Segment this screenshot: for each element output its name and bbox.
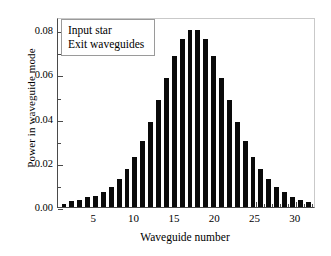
bar-waveguide-30: [290, 197, 295, 207]
bar-slot: [210, 19, 218, 207]
x-axis-title: Waveguide number: [55, 231, 315, 243]
bar-slot: [257, 19, 265, 207]
bar-waveguide-8: [117, 179, 122, 207]
bar-waveguide-11: [140, 141, 145, 207]
bar-waveguide-10: [132, 157, 137, 207]
chart-figure: Power in waveguide mode 0.000.020.040.06…: [0, 0, 331, 256]
bar-waveguide-16: [180, 39, 185, 207]
bar-waveguide-20: [211, 56, 216, 207]
bar-slot: [288, 19, 296, 207]
bar-waveguide-17: [188, 30, 193, 207]
bar-waveguide-21: [219, 78, 224, 207]
bar-slot: [304, 19, 312, 207]
bar-waveguide-24: [243, 141, 248, 207]
bar-waveguide-2: [69, 201, 74, 207]
bar-waveguide-9: [125, 169, 130, 207]
bar-slot: [225, 19, 233, 207]
bar-waveguide-19: [203, 39, 208, 207]
bar-waveguide-32: [306, 202, 311, 207]
bar-slot: [186, 19, 194, 207]
bar-waveguide-26: [258, 169, 263, 207]
bar-slot: [265, 19, 273, 207]
bar-waveguide-7: [109, 187, 114, 207]
x-tick-label: 25: [240, 211, 270, 225]
bar-waveguide-28: [274, 187, 279, 207]
bar-waveguide-1: [62, 204, 67, 207]
bar-waveguide-14: [164, 78, 169, 207]
y-tick-label: 0.02: [19, 159, 53, 169]
y-tick-label: 0.08: [19, 26, 53, 36]
bar-slot: [194, 19, 202, 207]
bar-slot: [281, 19, 289, 207]
legend-box: Input star Exit waveguides: [61, 19, 155, 56]
bar-slot: [170, 19, 178, 207]
y-tick-label: 0.00: [19, 203, 53, 213]
bar-slot: [273, 19, 281, 207]
bar-slot: [162, 19, 170, 207]
bar-waveguide-27: [266, 179, 271, 207]
bar-waveguide-12: [148, 122, 153, 207]
bar-waveguide-23: [235, 122, 240, 207]
bar-slot: [155, 19, 163, 207]
y-tick-label: 0.06: [19, 70, 53, 80]
x-tick-label: 5: [78, 211, 108, 225]
bar-slot: [241, 19, 249, 207]
bar-waveguide-18: [195, 30, 200, 207]
bar-waveguide-5: [93, 196, 98, 207]
bar-waveguide-3: [77, 200, 82, 207]
x-tick-label: 15: [159, 211, 189, 225]
bar-waveguide-31: [298, 200, 303, 207]
legend-entry-input-star: Input star: [68, 23, 144, 37]
legend-entry-exit-waveguides: Exit waveguides: [68, 37, 144, 51]
y-axis-tick-labels: 0.000.020.040.060.08: [16, 18, 53, 208]
bar-waveguide-4: [85, 197, 90, 207]
bar-waveguide-15: [172, 56, 177, 207]
y-tick-major: [58, 209, 63, 210]
x-axis-tick-labels: 51015202530: [57, 211, 315, 227]
bar-slot: [233, 19, 241, 207]
plot-area: Input star Exit waveguides: [57, 18, 315, 208]
bar-slot: [218, 19, 226, 207]
bar-waveguide-25: [251, 157, 256, 207]
bar-slot: [249, 19, 257, 207]
bar-waveguide-29: [282, 192, 287, 207]
bar-waveguide-6: [101, 192, 106, 207]
x-tick-label: 30: [280, 211, 310, 225]
y-tick-label: 0.04: [19, 115, 53, 125]
bar-waveguide-22: [227, 100, 232, 207]
bar-slot: [202, 19, 210, 207]
bar-slot: [296, 19, 304, 207]
bar-waveguide-13: [156, 100, 161, 207]
bar-slot: [178, 19, 186, 207]
x-tick-label: 10: [119, 211, 149, 225]
x-tick-label: 20: [199, 211, 229, 225]
